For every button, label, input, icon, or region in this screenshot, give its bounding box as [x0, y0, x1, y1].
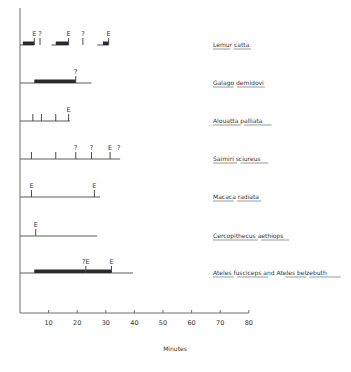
species-row: ??E?: [20, 144, 120, 159]
event-marker-label: E: [67, 106, 71, 114]
species-label: Lemur catta: [213, 41, 250, 48]
species-row: ?EE: [20, 258, 133, 273]
x-tick-label: 30: [102, 319, 110, 327]
species-label: Cercopithecus aethiops: [213, 232, 283, 240]
event-marker-label: ?E: [82, 258, 90, 266]
event-marker-label: ?: [90, 144, 93, 152]
x-tick-label: 40: [130, 319, 138, 327]
x-tick-label: 20: [73, 319, 81, 327]
species-label: Macaca radiata: [213, 193, 259, 200]
x-tick-label: 70: [216, 319, 224, 327]
event-marker-label: E: [109, 258, 113, 266]
intromission-bar: [103, 42, 109, 46]
event-marker-label: E: [108, 144, 112, 152]
event-marker-label: E: [34, 221, 38, 229]
species-row: E?E?E: [20, 30, 111, 45]
x-tick-label: 80: [245, 319, 253, 327]
event-marker-label: E: [29, 182, 33, 190]
species-label: Saimiri sciureus: [213, 155, 261, 162]
event-marker-label: ?: [117, 144, 120, 152]
species-labels: Lemur cattaGalago demidoviAlouatta palli…: [213, 41, 341, 277]
intromission-bar: [23, 42, 34, 46]
species-label: Galago demidovi: [213, 79, 264, 87]
species-label: Ateles fusciceps and Ateles belzebuth: [213, 269, 327, 277]
event-marker-label: E: [107, 30, 111, 38]
event-marker-label: E: [32, 30, 36, 38]
species-row: E: [20, 106, 71, 121]
event-marker-label: ?: [38, 30, 41, 38]
x-tick-label: 10: [44, 319, 52, 327]
axes: 1020304050607080: [20, 8, 253, 327]
species-row: ?: [20, 68, 92, 83]
event-marker-label: E: [92, 182, 96, 190]
species-row: EE: [20, 182, 100, 197]
x-tick-label: 50: [159, 319, 167, 327]
event-marker-label: E: [67, 30, 71, 38]
intromission-bar: [34, 80, 75, 84]
species-row: E: [20, 221, 97, 236]
x-axis-label: Minutes: [163, 345, 187, 352]
event-marker-label: ?: [74, 68, 77, 76]
x-tick-label: 60: [187, 319, 195, 327]
copulation-timeline-chart: 1020304050607080 E?E?E?E??E?EEE?EE Lemur…: [0, 0, 351, 372]
event-marker-label: ?: [74, 144, 77, 152]
intromission-bar: [56, 42, 69, 46]
event-marker-label: ?: [81, 30, 84, 38]
intromission-bar: [34, 270, 111, 274]
species-label: Alouatta palliata: [213, 117, 263, 125]
species-rows: E?E?E?E??E?EEE?EE: [20, 30, 133, 273]
